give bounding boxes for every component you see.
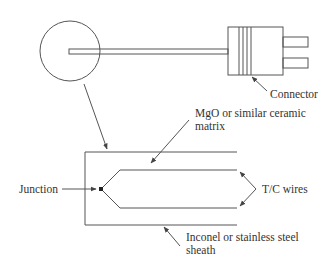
detail-circle <box>40 21 100 81</box>
connector-prong-bottom <box>283 58 308 68</box>
probe-overview: Connector <box>40 21 318 100</box>
tc-wires-arrow-bottom <box>240 189 256 206</box>
matrix-arrow <box>151 120 189 163</box>
junction-label: Junction <box>19 183 58 195</box>
connector-arrow <box>252 77 267 91</box>
connector-body <box>228 27 283 75</box>
tc-wires-label: T/C wires <box>262 183 308 195</box>
junction-dot <box>99 187 103 191</box>
sheath-label-line1: Inconel or stainless steel <box>186 231 299 243</box>
detail-pointer-arrow <box>84 84 107 149</box>
thermocouple-diagram: Connector MgO or similar ceramic matrix … <box>0 0 330 273</box>
connector-prong-top <box>283 37 308 47</box>
tc-wires-arrow-top <box>240 172 256 189</box>
sheath-label-line2: sheath <box>186 244 216 256</box>
matrix-label-line2: matrix <box>195 120 225 132</box>
sheath-cross-section <box>85 152 237 225</box>
probe-rod <box>69 49 228 54</box>
connector <box>228 27 308 75</box>
matrix-label-line1: MgO or similar ceramic <box>195 107 306 120</box>
sheath-arrow <box>164 227 180 246</box>
tc-wires <box>101 170 237 208</box>
sheath-outline <box>85 152 237 225</box>
connector-label: Connector <box>270 88 318 100</box>
